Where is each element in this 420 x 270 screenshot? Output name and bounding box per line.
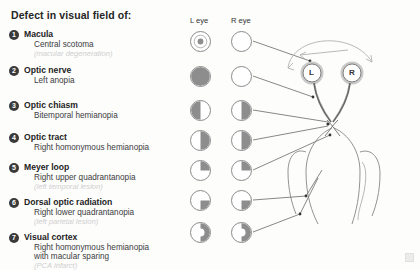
- left-eye-field-7: [190, 222, 211, 243]
- left-eye-field-4: [190, 130, 211, 151]
- field-row-7: [0, 222, 420, 248]
- left-eye-field-6: [190, 190, 211, 211]
- corner-marker: [405, 253, 414, 262]
- left-eye-field-5: [190, 160, 211, 181]
- brain-left-eye-label: L: [309, 68, 314, 77]
- brain-right-eye-label: R: [349, 68, 355, 77]
- left-eye-field-2: [190, 66, 211, 87]
- field-row-4: [0, 130, 420, 156]
- column-header-right-eye: R eye: [231, 16, 251, 25]
- lesion-cause: (PCA infarct): [34, 261, 77, 270]
- field-row-6: [0, 190, 420, 216]
- field-row-1: [0, 31, 420, 57]
- column-header-left-eye: L eye: [190, 16, 208, 25]
- right-eye-field-6: [231, 190, 252, 211]
- defect-description-line2: with macular sparing: [34, 252, 109, 261]
- right-eye-field-7: [231, 222, 252, 243]
- left-eye-field-1: [190, 31, 211, 52]
- field-row-2: [0, 66, 420, 92]
- right-eye-field-2: [231, 66, 252, 87]
- field-row-5: [0, 160, 420, 186]
- right-eye-field-5: [231, 160, 252, 181]
- right-eye-field-4: [231, 130, 252, 151]
- right-eye-field-1: [231, 31, 252, 52]
- field-row-3: [0, 100, 420, 126]
- page-title: Defect in visual field of:: [11, 9, 131, 21]
- left-eye-field-3: [190, 100, 211, 121]
- right-eye-field-3: [231, 100, 252, 121]
